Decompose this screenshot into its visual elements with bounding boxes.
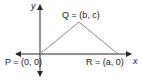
x-axis-label: x [133, 56, 138, 66]
side-pq [40, 22, 79, 54]
point-label-q: Q = (b, c) [62, 10, 100, 20]
point-label-p: P = (0, 0) [5, 57, 42, 67]
point-label-r: R = (a, 0) [86, 57, 124, 67]
y-axis-label: y [31, 1, 36, 11]
side-qr [79, 22, 118, 54]
